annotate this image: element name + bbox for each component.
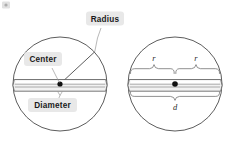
callout-radius-label: Radius <box>91 15 120 24</box>
callout-radius: Radius <box>86 12 124 52</box>
circle-parts-diagram: Radius Center Diameter <box>0 0 233 142</box>
right-circle-group: r r d <box>128 37 222 131</box>
corner-artifact <box>2 2 10 9</box>
callout-diameter-label: Diameter <box>34 101 71 110</box>
center-point-dot-right <box>172 81 178 87</box>
circle-diagram-svg: Radius Center Diameter <box>0 0 233 142</box>
callout-center-label: Center <box>29 55 57 64</box>
left-circle-group: Radius Center Diameter <box>13 12 124 132</box>
center-point-dot <box>57 81 62 86</box>
